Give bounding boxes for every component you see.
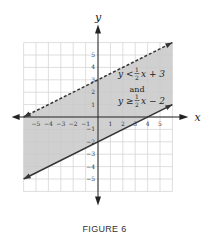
y-axis-label: y <box>94 11 102 24</box>
x-axis-arrow-icon <box>179 114 188 120</box>
figure-caption: FIGURE 6 <box>0 224 209 234</box>
x-tick-label: 4 <box>146 120 150 127</box>
arrowhead-icon <box>24 112 31 117</box>
inequality-1-num: 1 <box>135 66 139 73</box>
y-tick-label: −1 <box>86 125 95 132</box>
x-tick-label: 1 <box>108 120 112 127</box>
arrowhead-icon <box>165 105 172 110</box>
x-axis-label: x <box>194 111 201 124</box>
y-tick-label: 4 <box>91 63 95 70</box>
x-tick-label: 2 <box>121 120 125 127</box>
y-tick-label: 2 <box>91 88 95 95</box>
y-axis-arrow-icon <box>95 25 101 34</box>
x-tick-label: −4 <box>44 120 53 127</box>
y-tick-label: 1 <box>91 101 95 108</box>
x-tick-label: −5 <box>32 120 41 127</box>
inequality-2-num: 1 <box>135 93 139 100</box>
x-axis-arrow-icon <box>12 114 20 120</box>
x-tick-label: −2 <box>69 120 78 127</box>
inequality-2-lhs: y ≥ <box>117 96 134 106</box>
coordinate-plane: xy−5−4−3−2−112345−5−4−3−2−112345y <12x +… <box>0 0 209 220</box>
x-tick-label: −3 <box>56 120 65 127</box>
y-tick-label: −3 <box>86 150 95 157</box>
y-axis-arrow-icon <box>95 196 101 205</box>
y-tick-label: 5 <box>91 51 95 58</box>
inequality-2-rhs: x − 2 <box>141 96 165 106</box>
y-tick-label: −5 <box>86 175 95 182</box>
inequality-1-den: 2 <box>135 74 139 81</box>
inequality-1-lhs: y < <box>117 69 134 79</box>
y-tick-label: −4 <box>86 163 95 170</box>
inequality-2-den: 2 <box>135 101 139 108</box>
x-tick-label: 5 <box>158 120 162 127</box>
inequality-1-rhs: x + 3 <box>141 69 165 79</box>
